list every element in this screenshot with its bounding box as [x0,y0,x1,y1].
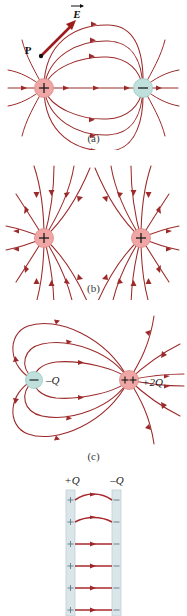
panel-b-caption: (b) [0,282,187,294]
positive-charge [120,371,139,390]
electric-field-figure: P E (a) [0,0,187,616]
positive-charge-right [132,229,151,248]
panel-a-diagram: P E [0,0,187,150]
negative-charge-label: –Q [45,374,60,386]
positive-charge-left [35,229,54,248]
panel-d-diagram: +Q –Q [0,470,187,616]
negative-charge [26,372,43,389]
panel-c-unequal-charges: –Q +2Q (c) [0,300,187,468]
point-p-dot [39,54,43,58]
e-vector-label: E [71,4,84,20]
e-vector-label-text: E [72,8,80,20]
negative-plate-label: –Q [109,474,124,486]
positive-charge-label: +2Q [142,376,163,388]
panel-a-dipole: P E (a) [0,0,187,150]
positive-plate-label: +Q [64,474,79,486]
negative-plate [112,490,121,616]
panel-a-caption: (a) [0,132,187,144]
negative-charge [134,79,153,98]
panel-c-diagram: –Q +2Q [0,300,187,468]
positive-plate [66,490,75,616]
panel-b-diagram [0,152,187,300]
point-p-label: P [25,44,32,56]
positive-charge [35,79,54,98]
panel-d-parallel-plates: +Q –Q [0,470,187,616]
panel-b-like-charges: (b) [0,152,187,300]
field-direction-arrows [90,493,96,613]
capacitor-field-lines [75,494,112,610]
panel-c-caption: (c) [0,450,187,462]
like-charge-field-lines [6,166,179,300]
